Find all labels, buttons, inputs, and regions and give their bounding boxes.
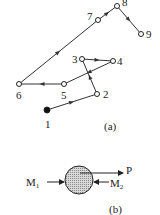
node-label-3: 3	[72, 53, 78, 65]
node-2	[95, 92, 100, 97]
direction-arrow-icon	[94, 58, 99, 62]
node-label-9: 9	[146, 28, 152, 40]
m1-label: M1	[26, 176, 40, 190]
node-label-6: 6	[16, 89, 22, 101]
direction-arrow-icon	[40, 82, 45, 86]
node-9	[139, 32, 144, 37]
node-labels: 123456789	[16, 0, 152, 130]
node-5	[62, 82, 67, 87]
particle-circle	[65, 166, 93, 194]
caption-b: (b)	[109, 203, 122, 215]
m2-label: M2	[110, 177, 124, 191]
caption-a: (a)	[104, 120, 117, 133]
node-7	[96, 18, 101, 23]
node-6	[17, 82, 22, 87]
node-8	[115, 4, 120, 9]
path-nodes	[17, 4, 144, 114]
direction-arrow-icon	[87, 74, 93, 80]
node-4	[111, 59, 116, 64]
node-label-8: 8	[122, 0, 128, 8]
figure-b: M1 M2 P (b)	[26, 164, 132, 215]
node-label-4: 4	[117, 55, 123, 67]
node-label-7: 7	[87, 10, 93, 22]
node-3	[80, 57, 85, 62]
node-label-2: 2	[103, 88, 109, 100]
node-1	[44, 107, 50, 113]
direction-arrow-icon	[69, 99, 75, 104]
node-label-5: 5	[61, 89, 67, 101]
p-label: P	[126, 164, 132, 176]
node-label-1: 1	[45, 118, 51, 130]
diagram-canvas: 123456789 (a) M1 M2 P (b)	[0, 0, 160, 215]
